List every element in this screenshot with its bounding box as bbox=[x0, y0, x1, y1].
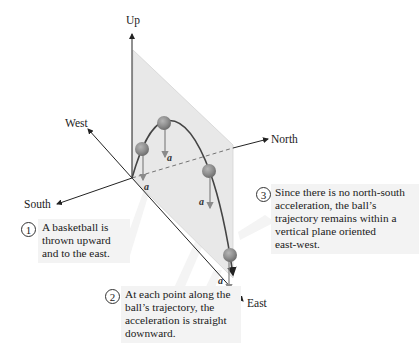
vertical-plane bbox=[132, 50, 233, 278]
callout-3-line: trajectory remains within a bbox=[275, 212, 415, 225]
ball-1 bbox=[135, 142, 149, 156]
callout-3-number: 3 bbox=[256, 187, 271, 202]
callout-2-line: ball’s trajectory, the bbox=[125, 301, 237, 314]
ball-3 bbox=[202, 164, 216, 178]
callout-1-line: A basketball is bbox=[42, 221, 126, 234]
axis-south bbox=[57, 178, 132, 204]
axis-label-north: North bbox=[271, 134, 298, 146]
callout-2-line: acceleration is straight bbox=[125, 314, 237, 327]
accel-label-3: a⃗ bbox=[199, 197, 212, 207]
axis-label-south: South bbox=[24, 199, 51, 211]
axis-label-east: East bbox=[247, 298, 267, 310]
ball-4 bbox=[223, 248, 237, 262]
callout-3: Since there is no north-south accelerati… bbox=[271, 184, 419, 254]
callout-3-line: east-west. bbox=[275, 238, 415, 251]
accel-label-1: a⃗ bbox=[144, 182, 157, 192]
callout-1: A basketball is thrown upward and to the… bbox=[38, 219, 130, 263]
callout-3-line: Since there is no north-south bbox=[275, 186, 415, 199]
callout-1-number: 1 bbox=[21, 222, 36, 237]
axis-north bbox=[233, 139, 268, 148]
axis-west bbox=[88, 129, 132, 178]
callout-1-line: thrown upward bbox=[42, 234, 126, 247]
accel-label-2: a⃗ bbox=[167, 153, 180, 163]
callout-1-line: and to the east. bbox=[42, 247, 126, 260]
axis-label-up: Up bbox=[126, 15, 140, 27]
callout-3-line: vertical plane oriented bbox=[275, 225, 415, 238]
accel-label-4: a⃗ bbox=[218, 276, 231, 286]
callout-2: At each point along the ball’s trajector… bbox=[121, 286, 241, 343]
axis-label-west: West bbox=[65, 118, 88, 130]
callout-2-number: 2 bbox=[105, 289, 120, 304]
callout-3-line: acceleration, the ball’s bbox=[275, 199, 415, 212]
callout-2-line: At each point along the bbox=[125, 288, 237, 301]
callout-2-line: downward. bbox=[125, 327, 237, 340]
ball-2 bbox=[157, 116, 171, 130]
